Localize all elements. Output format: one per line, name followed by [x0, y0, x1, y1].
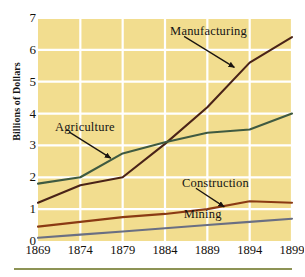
series-label-agriculture: Agriculture	[55, 120, 115, 135]
x-tick-1899: 1899	[280, 243, 305, 258]
line-chart-figure: Billions of Dollars 01234567 18691874187…	[0, 0, 304, 277]
y-tick-3: 3	[18, 137, 36, 153]
y-tick-6: 6	[18, 42, 36, 58]
x-tick-1879: 1879	[110, 243, 135, 258]
bottom-rule	[14, 268, 292, 270]
plot-area	[0, 0, 304, 277]
y-axis-tick-labels: 01234567	[16, 0, 36, 277]
y-tick-7: 7	[18, 10, 36, 26]
y-tick-4: 4	[18, 106, 36, 122]
y-tick-2: 2	[18, 169, 36, 185]
y-tick-5: 5	[18, 74, 36, 90]
series-label-construction: Construction	[182, 176, 249, 191]
x-axis-tick-labels: 1869187418791884188918941899	[0, 243, 304, 263]
x-tick-1874: 1874	[68, 243, 93, 258]
x-tick-1894: 1894	[237, 243, 262, 258]
x-tick-1884: 1884	[153, 243, 178, 258]
series-label-manufacturing: Manufacturing	[170, 24, 247, 39]
series-label-mining: Mining	[184, 207, 222, 222]
x-tick-1889: 1889	[195, 243, 220, 258]
y-tick-1: 1	[18, 201, 36, 217]
x-tick-1869: 1869	[26, 243, 51, 258]
